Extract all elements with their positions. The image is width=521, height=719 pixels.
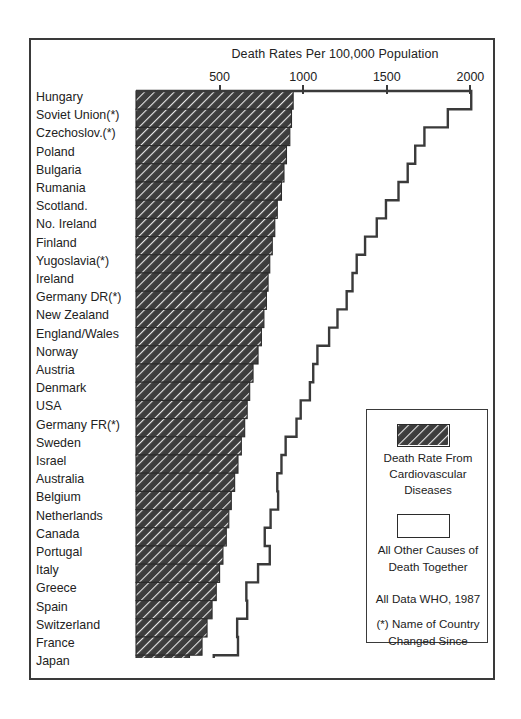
chart-title: Death Rates Per 100,000 Population	[175, 47, 495, 61]
cardiovascular-bar-20	[136, 455, 238, 473]
cardiovascular-bar-31	[136, 655, 190, 658]
x-tick-label-1000: 1000	[289, 70, 317, 84]
country-label-29: Switzerland	[36, 618, 100, 632]
country-label-11: Germany DR(*)	[36, 290, 121, 304]
cardiovascular-bar-9	[136, 255, 270, 273]
country-label-26: Italy	[36, 563, 59, 577]
cardiovascular-bar-25	[136, 546, 223, 564]
cardiovascular-bar-15	[136, 364, 253, 382]
country-label-12: New Zealand	[36, 308, 109, 322]
cardiovascular-bar-7	[136, 218, 275, 236]
legend-text-2: Cardiovascular	[367, 467, 489, 480]
country-label-22: Belgium	[36, 490, 81, 504]
cardiovascular-bar-19	[136, 437, 241, 455]
cardiovascular-bar-18	[136, 419, 245, 437]
cardiovascular-bar-24	[136, 528, 226, 546]
country-label-2: Czechoslov.(*)	[36, 126, 116, 140]
country-label-14: Norway	[36, 345, 78, 359]
legend-text-3: Diseases	[367, 483, 489, 496]
country-label-19: Sweden	[36, 436, 81, 450]
chart-page: Death Rates Per 100,000 Population 50010…	[0, 0, 521, 719]
cardiovascular-bar-5	[136, 182, 281, 200]
country-label-4: Bulgaria	[36, 163, 81, 177]
cardiovascular-bar-11	[136, 291, 266, 309]
chart-legend: Death Rate From Cardiovascular Diseases …	[366, 409, 488, 643]
cardiovascular-bar-8	[136, 237, 272, 255]
legend-text-4: All Other Causes of	[367, 543, 489, 556]
country-label-6: Scotland.	[36, 199, 88, 213]
country-label-7: No. Ireland	[36, 217, 97, 231]
cardiovascular-bar-22	[136, 491, 231, 509]
cardiovascular-bar-13	[136, 328, 261, 346]
country-label-25: Portugal	[36, 545, 82, 559]
cardiovascular-bar-2	[136, 127, 290, 145]
cardiovascular-bar-0	[136, 91, 293, 109]
legend-text-8: Changed Since	[367, 634, 489, 647]
country-label-30: France	[36, 636, 75, 650]
x-tick-label-500: 500	[209, 70, 230, 84]
cardiovascular-bar-26	[136, 564, 220, 582]
cardiovascular-bar-12	[136, 309, 264, 327]
cardiovascular-bar-23	[136, 510, 229, 528]
country-label-1: Soviet Union(*)	[36, 108, 119, 122]
legend-text-7: (*) Name of Country	[367, 617, 489, 630]
cardiovascular-bar-14	[136, 346, 258, 364]
cardiovascular-bar-29	[136, 619, 207, 637]
country-label-15: Austria	[36, 363, 75, 377]
country-label-3: Poland	[36, 145, 75, 159]
cardiovascular-bar-17	[136, 400, 247, 418]
country-label-28: Spain	[36, 600, 68, 614]
country-label-23: Netherlands	[36, 509, 103, 523]
x-tick-label-2000: 2000	[456, 70, 484, 84]
cardiovascular-bar-16	[136, 382, 250, 400]
country-label-0: Hungary	[36, 90, 83, 104]
country-label-13: England/Wales	[36, 327, 119, 341]
cardiovascular-bar-1	[136, 109, 291, 127]
cardiovascular-bar-27	[136, 582, 216, 600]
country-label-18: Germany FR(*)	[36, 418, 120, 432]
cardiovascular-bar-30	[136, 637, 202, 655]
cardiovascular-bar-3	[136, 146, 286, 164]
cardiovascular-swatch	[397, 424, 450, 447]
country-label-21: Australia	[36, 472, 84, 486]
country-label-10: Ireland	[36, 272, 74, 286]
country-label-20: Israel	[36, 454, 66, 468]
x-tick-label-1500: 1500	[373, 70, 401, 84]
country-label-5: Rumania	[36, 181, 86, 195]
country-label-24: Canada	[36, 527, 79, 541]
legend-text-1: Death Rate From	[367, 451, 489, 464]
cardiovascular-bar-4	[136, 164, 284, 182]
cardiovascular-bar-6	[136, 200, 277, 218]
country-label-9: Yugoslavia(*)	[36, 254, 109, 268]
other-causes-swatch	[397, 514, 450, 538]
cardiovascular-bar-28	[136, 601, 212, 619]
cardiovascular-bar-21	[136, 473, 235, 491]
cardiovascular-swatch-fill	[398, 425, 448, 445]
country-label-31: Japan	[36, 654, 70, 668]
country-label-27: Greece	[36, 581, 77, 595]
cardiovascular-bar-10	[136, 273, 268, 291]
legend-text-5: Death Together	[367, 560, 489, 573]
country-label-17: USA	[36, 399, 61, 413]
country-label-16: Denmark	[36, 381, 86, 395]
legend-text-6: All Data WHO, 1987	[367, 592, 489, 605]
country-label-8: Finland	[36, 236, 77, 250]
